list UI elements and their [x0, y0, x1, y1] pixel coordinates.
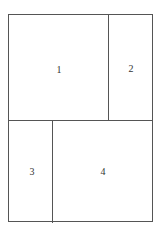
bottom-vertical-divider — [52, 121, 53, 223]
top-vertical-divider — [108, 15, 109, 121]
horizontal-divider — [9, 120, 152, 121]
region-label-3: 3 — [30, 167, 35, 177]
region-label-2: 2 — [129, 64, 134, 74]
outer-rectangle — [8, 14, 153, 222]
region-label-1: 1 — [57, 65, 62, 75]
region-label-4: 4 — [101, 167, 106, 177]
